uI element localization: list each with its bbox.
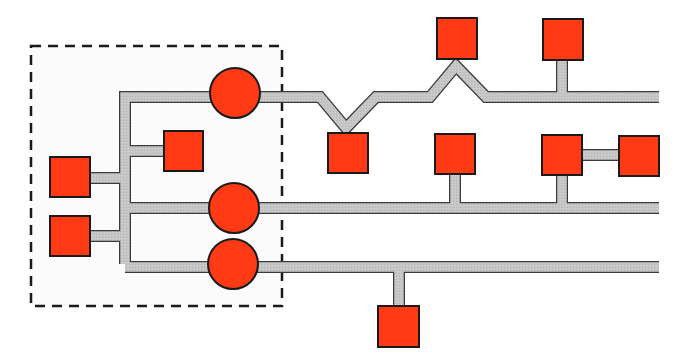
- remote-3-square-node[interactable]: [543, 19, 583, 60]
- remote-6-square-node[interactable]: [619, 136, 659, 176]
- link-top-line[interactable]: [258, 66, 659, 128]
- remote-2-square-node[interactable]: [437, 18, 477, 59]
- hub-3-circle-node[interactable]: [208, 239, 258, 289]
- hub-1-circle-node[interactable]: [210, 68, 260, 118]
- diagram-canvas: [0, 0, 690, 358]
- hub-2-circle-node[interactable]: [209, 183, 259, 233]
- network-diagram: [0, 0, 690, 358]
- remote-5-square-node[interactable]: [542, 135, 582, 175]
- local-2-square-node[interactable]: [50, 216, 90, 256]
- local-1-square-node[interactable]: [50, 157, 90, 197]
- remote-4-square-node[interactable]: [435, 134, 475, 174]
- remote-7-square-node[interactable]: [378, 306, 419, 347]
- local-3-square-node[interactable]: [164, 131, 203, 171]
- remote-1-square-node[interactable]: [328, 133, 368, 173]
